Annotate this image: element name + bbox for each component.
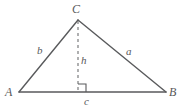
altitude-label-h: h [81, 55, 87, 66]
right-angle-marker [78, 84, 86, 92]
side-label-c: c [84, 96, 89, 107]
triangle-side-cb [78, 20, 166, 92]
triangle-side-ac [19, 20, 78, 92]
vertex-label-a: A [5, 86, 12, 98]
side-label-b: b [37, 45, 43, 56]
vertex-label-b: B [169, 86, 176, 98]
triangle-diagram-svg [0, 0, 186, 109]
triangle-figure: C A B b a h c [0, 0, 186, 109]
side-label-a: a [126, 46, 132, 57]
vertex-label-c: C [72, 3, 80, 15]
